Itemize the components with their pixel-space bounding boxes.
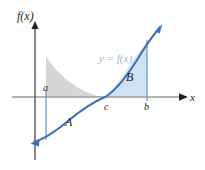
y-axis-label: f(x) bbox=[17, 9, 34, 23]
tick-label-c: c bbox=[104, 101, 109, 112]
region-b-label: B bbox=[126, 70, 134, 84]
region-a-shading bbox=[46, 56, 105, 97]
figure-container: f(x) x y = f(x) a c b A B bbox=[0, 0, 205, 170]
x-axis-label: x bbox=[189, 91, 195, 103]
tick-label-a: a bbox=[43, 82, 48, 93]
region-a-label: A bbox=[64, 115, 73, 129]
curve-equation-label: y = f(x) bbox=[98, 52, 132, 65]
signed-area-diagram: f(x) x y = f(x) a c b A B bbox=[0, 0, 205, 170]
tick-label-b: b bbox=[144, 101, 149, 112]
x-axis-arrowhead bbox=[179, 93, 188, 101]
